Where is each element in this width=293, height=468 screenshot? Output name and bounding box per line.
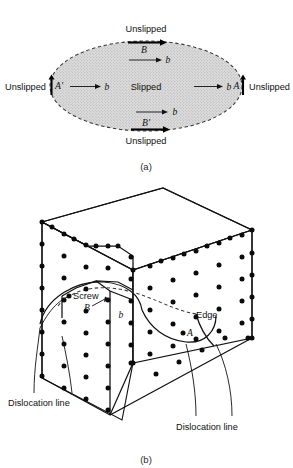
leader-dislocation-line-right [186,344,232,416]
label-unslipped-top: Unslipped [126,24,167,34]
label-unslipped-left: Unslipped [5,82,46,92]
label-point-A: A [186,327,193,338]
panel-b-crystal-block: Screw B Edge A b Dislocation line Disloc… [0,178,293,468]
caption-panel-b: (b) [140,454,152,465]
label-point-B: B [84,302,90,313]
label-burgers-bottom: b [173,106,178,117]
label-burgers-block: b [119,309,124,320]
label-burgers-left: b [105,81,110,92]
label-unslipped-right: Unslipped [249,82,290,92]
label-segment-A-prime: A' [54,80,64,91]
figure-page: Unslipped B b Unslipped A' b Slipped [0,0,293,468]
label-segment-B: B [141,44,147,55]
label-segment-B-prime: B' [142,117,151,128]
label-segment-A: A [233,80,240,91]
label-burgers-right: b [227,81,232,92]
edge-marker-dot [181,331,186,336]
label-unslipped-bottom: Unslipped [126,136,167,146]
label-slipped-center: Slipped [131,82,162,92]
caption-panel-a: (a) [140,161,152,172]
label-dislocation-line-left: Dislocation line [8,398,70,408]
label-dislocation-line-right: Dislocation line [176,422,238,432]
panel-a-dislocation-loop: Unslipped B b Unslipped A' b Slipped [0,0,293,175]
label-edge: Edge [196,310,217,320]
label-screw: Screw [73,291,99,301]
screw-marker-dot [67,294,72,299]
label-burgers-top: b [166,54,171,65]
